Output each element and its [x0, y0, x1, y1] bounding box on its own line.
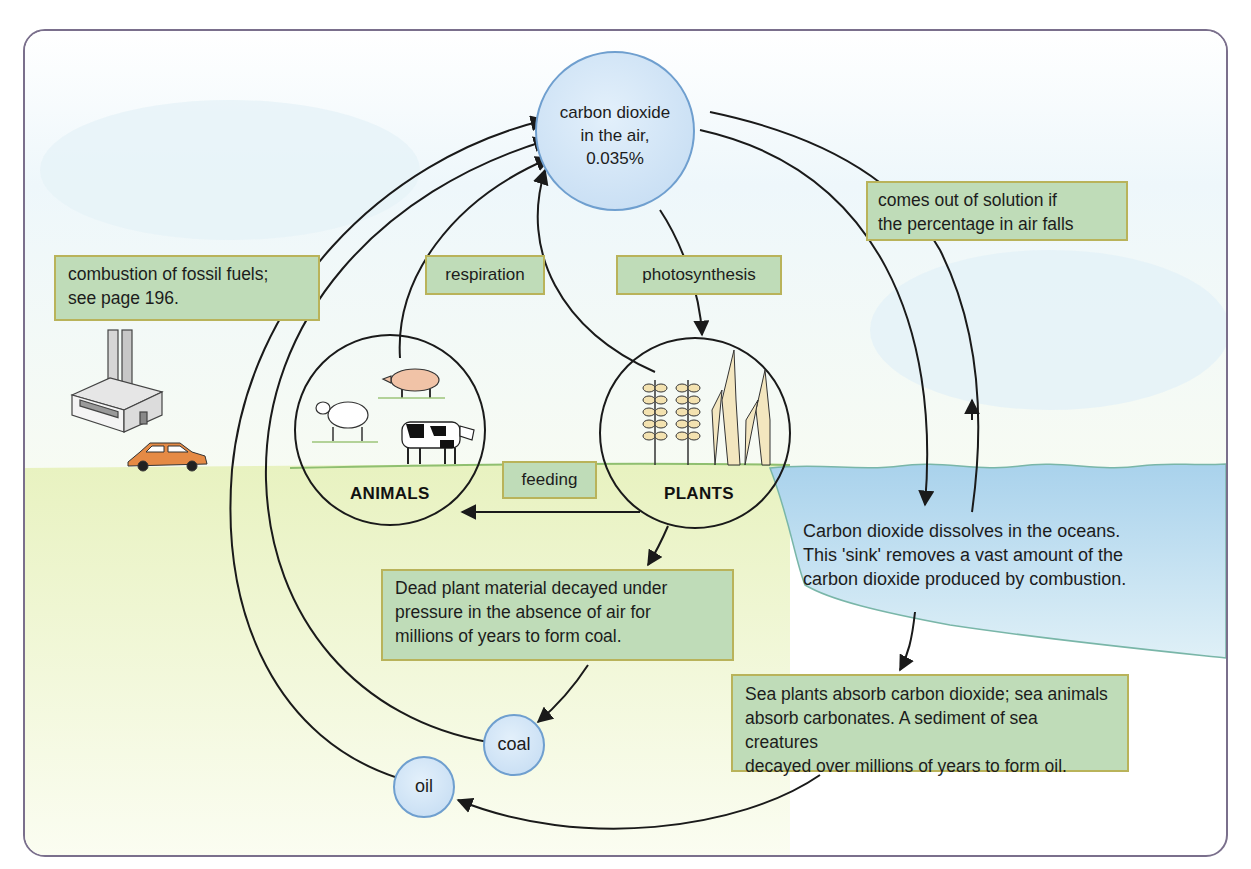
respiration-label: respiration — [425, 255, 545, 295]
coal-label: coal — [484, 733, 544, 756]
animals-title: ANIMALS — [350, 484, 430, 504]
plants-title: PLANTS — [664, 484, 734, 504]
feeding-label: feeding — [502, 461, 597, 499]
photosynthesis-label: photosynthesis — [616, 255, 782, 295]
dead-plant-label: Dead plant material decayed under pressu… — [381, 569, 734, 661]
solution-label: comes out of solution if the percentage … — [866, 181, 1128, 241]
combustion-label: combustion of fossil fuels; see page 196… — [54, 255, 320, 321]
co2-air-label: carbon dioxide in the air, 0.035% — [540, 101, 690, 170]
arrow-ocean-to-sediment — [900, 612, 915, 670]
sea-plants-label: Sea plants absorb carbon dioxide; sea an… — [731, 674, 1129, 772]
ocean-sink-text: Carbon dioxide dissolves in the oceans. … — [803, 519, 1203, 591]
oil-label: oil — [394, 775, 454, 798]
